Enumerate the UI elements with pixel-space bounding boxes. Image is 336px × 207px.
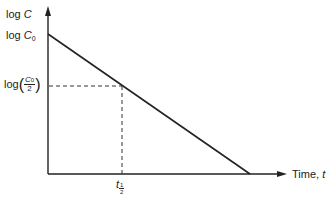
log-c0-text: log (6, 29, 24, 41)
diagram-canvas (0, 0, 336, 207)
x-axis-label-var: t (322, 168, 325, 180)
c0-over-2-fraction: C02 (24, 76, 35, 93)
half-life-subscript: 12 (119, 182, 124, 195)
log-half-c0-label: log(C02) (4, 76, 40, 93)
half-life-den: 2 (119, 189, 124, 195)
half-life-label: t12 (116, 179, 124, 195)
mid-log-text: log (4, 78, 19, 90)
log-c0-var: C (24, 29, 32, 41)
x-axis-arrow-icon (277, 171, 287, 177)
x-axis-label: Time, t (292, 169, 325, 180)
half-life-num: 1 (119, 182, 124, 189)
log-c0-sub: 0 (32, 35, 36, 42)
mid-close-paren: ) (35, 76, 40, 93)
x-axis-label-text: Time, (292, 168, 322, 180)
y-axis-label-text: log (6, 8, 24, 20)
frac-den: 2 (24, 85, 35, 93)
y-axis-arrow-icon (45, 6, 51, 16)
decay-line (48, 34, 250, 174)
y-axis-label: log C (6, 9, 32, 20)
log-c0-label: log C0 (6, 30, 36, 42)
y-axis-label-var: C (24, 8, 32, 20)
frac-num-sub: 0 (31, 77, 34, 83)
